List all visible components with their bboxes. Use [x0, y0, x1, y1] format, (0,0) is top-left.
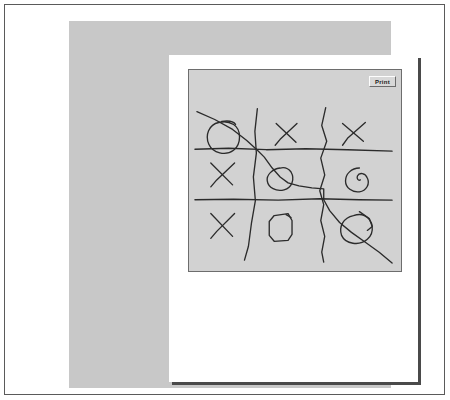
- mark-o-r2c3: [346, 168, 369, 192]
- diagonal-stroke: [197, 112, 392, 263]
- mark-x-r2c1-stroke-1: [211, 163, 233, 185]
- drawing-canvas[interactable]: Print: [188, 69, 402, 272]
- screenshot-frame: Print: [4, 4, 445, 395]
- grid-line-vertical-2: [320, 108, 327, 262]
- mark-o-r2c2: [267, 168, 293, 191]
- grid-line-horizontal-1: [195, 148, 392, 151]
- grid-line-vertical-1: [244, 109, 257, 260]
- document-backdrop: Print: [69, 21, 391, 388]
- mark-o-r3c2: [269, 214, 292, 242]
- mark-x-r1c2-stroke-2: [275, 123, 297, 145]
- mark-o-r3c3: [341, 214, 373, 243]
- document-page: Print: [169, 55, 418, 382]
- grid-line-horizontal-2: [195, 199, 392, 200]
- tic-tac-toe-drawing: [189, 70, 401, 271]
- print-button[interactable]: Print: [369, 76, 396, 87]
- mark-x-r3c1-stroke-1: [211, 214, 233, 237]
